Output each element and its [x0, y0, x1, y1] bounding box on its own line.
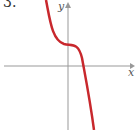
curve	[46, 0, 94, 130]
graph	[0, 0, 136, 130]
x-axis-label: x	[128, 66, 134, 79]
y-axis-label: y	[58, 0, 64, 13]
